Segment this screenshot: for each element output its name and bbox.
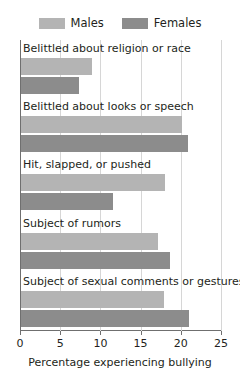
bar-females (21, 252, 170, 269)
bar-group-label: Subject of sexual comments or gestures (23, 275, 240, 288)
grouped-bar-chart: Males Females Belittled about religion o… (0, 0, 240, 376)
bar-males (21, 116, 182, 133)
bar-females (21, 135, 188, 152)
bar-males (21, 291, 164, 308)
bar-group-label: Hit, slapped, or pushed (23, 158, 151, 171)
x-tick-20 (181, 331, 182, 335)
bar-group: Belittled about looks or speech (20, 98, 221, 156)
x-tick-0 (20, 331, 21, 335)
x-tick-label-20: 20 (174, 337, 188, 350)
x-axis-title: Percentage experiencing bullying (0, 356, 240, 369)
bar-males (21, 58, 92, 75)
bar-group: Hit, slapped, or pushed (20, 156, 221, 214)
bar-group-label: Subject of rumors (23, 217, 121, 230)
x-tick-15 (141, 331, 142, 335)
bar-group: Subject of rumors (20, 215, 221, 273)
bar-group-label: Belittled about religion or race (23, 42, 191, 55)
legend-swatch-males (39, 18, 65, 29)
bar-females (21, 193, 113, 210)
legend-entry-females: Females (122, 17, 202, 29)
x-tick-5 (60, 331, 61, 335)
bar-males (21, 174, 165, 191)
x-tick-label-15: 15 (134, 337, 148, 350)
x-tick-label-10: 10 (93, 337, 107, 350)
legend-swatch-females (122, 18, 148, 29)
legend-label-males: Males (71, 17, 104, 29)
legend-label-females: Females (154, 17, 202, 29)
bar-group: Subject of sexual comments or gestures (20, 273, 221, 331)
x-tick-25 (221, 331, 222, 335)
x-tick-10 (100, 331, 101, 335)
bar-females (21, 77, 79, 94)
plot-area: Belittled about religion or raceBelittle… (20, 40, 221, 331)
bar-females (21, 310, 189, 327)
chart-legend: Males Females (0, 14, 240, 32)
x-tick-label-25: 25 (214, 337, 228, 350)
x-tick-label-0: 0 (17, 337, 24, 350)
x-tick-label-5: 5 (57, 337, 64, 350)
bar-group: Belittled about religion or race (20, 40, 221, 98)
bar-group-label: Belittled about looks or speech (23, 100, 194, 113)
bar-males (21, 233, 158, 250)
legend-entry-males: Males (39, 17, 104, 29)
